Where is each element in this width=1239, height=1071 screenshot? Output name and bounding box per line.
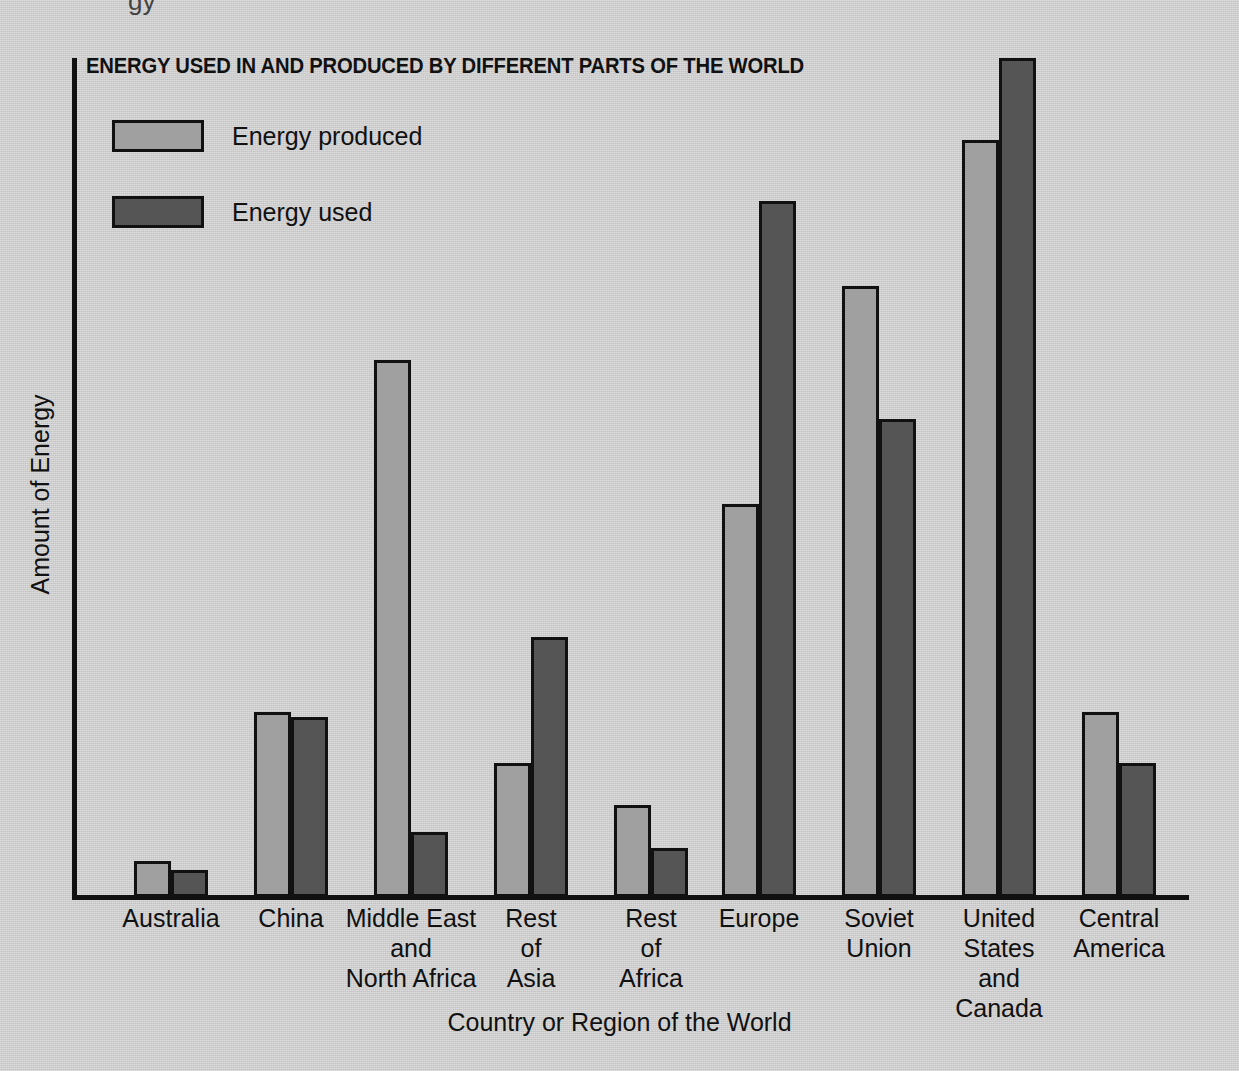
bar-group — [254, 58, 328, 897]
bar-energy-produced — [1082, 712, 1119, 897]
bar-energy-used — [651, 848, 688, 898]
bar-energy-produced — [614, 805, 651, 897]
bar-energy-produced — [134, 861, 171, 897]
bar-group — [134, 58, 208, 897]
bar-group — [722, 58, 796, 897]
bar-group — [842, 58, 916, 897]
bar-energy-used — [879, 419, 916, 897]
bar-energy-used — [1119, 763, 1156, 897]
bar-energy-produced — [374, 360, 411, 897]
bar-group — [962, 58, 1036, 897]
bar-energy-produced — [254, 712, 291, 897]
y-axis-title: Amount of Energy — [26, 395, 55, 595]
bar-energy-used — [411, 832, 448, 897]
bar-energy-used — [171, 870, 208, 897]
bar-group — [614, 58, 688, 897]
bar-energy-produced — [722, 504, 759, 897]
bar-energy-used — [291, 717, 328, 897]
bar-energy-used — [759, 201, 796, 897]
bar-chart: ENERGY USED IN AND PRODUCED BY DIFFERENT… — [0, 0, 1239, 1071]
plot-area — [77, 58, 1189, 897]
bar-energy-produced — [494, 763, 531, 897]
bar-group — [1082, 58, 1156, 897]
bar-energy-used — [531, 637, 568, 897]
bar-group — [374, 58, 448, 897]
x-axis-title: Country or Region of the World — [0, 1008, 1239, 1037]
bar-energy-used — [999, 58, 1036, 897]
x-axis-label: Central America — [1029, 903, 1209, 963]
bar-energy-produced — [842, 286, 879, 897]
bar-energy-produced — [962, 140, 999, 897]
bar-group — [494, 58, 568, 897]
